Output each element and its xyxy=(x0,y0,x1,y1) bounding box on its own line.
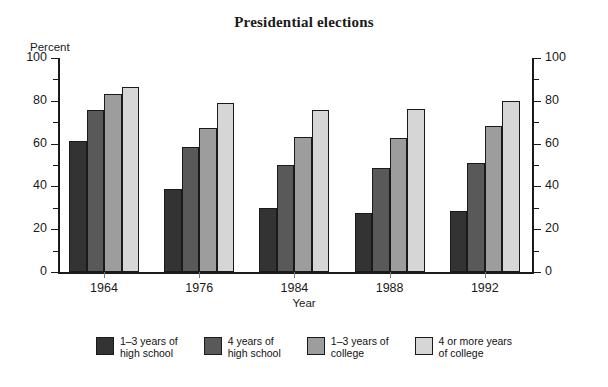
bar-group-1984 xyxy=(259,58,329,272)
bar-1984-series-2[interactable] xyxy=(277,165,295,272)
x-tick-label-1976: 1976 xyxy=(185,281,213,295)
y-tick-left-100 xyxy=(51,58,58,59)
y-tick-label-right-60: 60 xyxy=(545,137,559,150)
x-tick-label-1992: 1992 xyxy=(471,281,499,295)
y-minor-tick-left-10 xyxy=(53,251,58,252)
x-axis-spine xyxy=(58,272,534,274)
y-minor-tick-left-30 xyxy=(53,208,58,209)
bar-1964-series-2[interactable] xyxy=(87,110,105,272)
legend-swatch-2 xyxy=(204,337,222,355)
bar-group-1992 xyxy=(450,58,520,272)
x-tick-1984 xyxy=(294,272,295,278)
y-tick-left-80 xyxy=(51,101,58,102)
chart-legend: 1–3 years of high school4 years of high … xyxy=(0,336,608,359)
bar-1984-series-3[interactable] xyxy=(294,137,312,272)
y-tick-right-40 xyxy=(534,186,541,187)
bar-1964-series-4[interactable] xyxy=(122,87,140,272)
y-tick-label-right-80: 80 xyxy=(545,94,559,107)
y-tick-left-40 xyxy=(51,186,58,187)
x-tick-1964 xyxy=(104,272,105,278)
legend-swatch-4 xyxy=(415,337,433,355)
y-minor-tick-left-50 xyxy=(53,165,58,166)
y-minor-tick-right-30 xyxy=(534,208,539,209)
y-minor-tick-right-70 xyxy=(534,122,539,123)
y-tick-right-80 xyxy=(534,101,541,102)
bar-1964-series-3[interactable] xyxy=(104,94,122,272)
x-tick-1992 xyxy=(485,272,486,278)
bar-1976-series-2[interactable] xyxy=(182,147,200,272)
bar-1984-series-1[interactable] xyxy=(259,208,277,272)
bar-1988-series-3[interactable] xyxy=(390,138,408,272)
y-tick-right-60 xyxy=(534,144,541,145)
legend-label-4: 4 or more years of college xyxy=(439,336,513,359)
legend-swatch-1 xyxy=(96,337,114,355)
bar-1984-series-4[interactable] xyxy=(312,110,330,272)
y-tick-label-right-0: 0 xyxy=(545,265,552,278)
y-axis-left-spine xyxy=(58,58,60,272)
bar-1992-series-2[interactable] xyxy=(467,163,485,272)
bar-group-1988 xyxy=(355,58,425,272)
bar-1976-series-1[interactable] xyxy=(164,189,182,272)
y-tick-label-left-60: 60 xyxy=(33,137,47,150)
plot-area: 020406080100 020406080100 19641976198419… xyxy=(58,58,534,272)
legend-swatch-3 xyxy=(307,337,325,355)
legend-item-3[interactable]: 1–3 years of college xyxy=(307,336,389,359)
y-tick-label-right-20: 20 xyxy=(545,222,559,235)
y-tick-label-left-100: 100 xyxy=(26,51,47,64)
bar-1964-series-1[interactable] xyxy=(69,141,87,272)
x-tick-label-1964: 1964 xyxy=(90,281,118,295)
x-tick-1988 xyxy=(390,272,391,278)
bar-1976-series-3[interactable] xyxy=(199,128,217,272)
y-tick-label-left-0: 0 xyxy=(40,265,47,278)
legend-item-1[interactable]: 1–3 years of high school xyxy=(96,336,178,359)
y-tick-left-60 xyxy=(51,144,58,145)
x-tick-label-1984: 1984 xyxy=(280,281,308,295)
chart-figure: Presidential elections Percent 020406080… xyxy=(0,0,608,387)
y-minor-tick-right-90 xyxy=(534,79,539,80)
y-minor-tick-right-10 xyxy=(534,251,539,252)
legend-item-4[interactable]: 4 or more years of college xyxy=(415,336,513,359)
bar-1992-series-3[interactable] xyxy=(485,126,503,272)
y-minor-tick-right-50 xyxy=(534,165,539,166)
legend-label-2: 4 years of high school xyxy=(228,336,281,359)
legend-label-3: 1–3 years of college xyxy=(331,336,389,359)
bar-1988-series-4[interactable] xyxy=(407,109,425,272)
y-tick-label-right-40: 40 xyxy=(545,179,559,192)
y-tick-label-left-80: 80 xyxy=(33,94,47,107)
bar-1988-series-1[interactable] xyxy=(355,213,373,272)
x-tick-label-1988: 1988 xyxy=(376,281,404,295)
y-tick-left-0 xyxy=(51,272,58,273)
y-tick-label-left-40: 40 xyxy=(33,179,47,192)
x-axis-title: Year xyxy=(0,297,608,309)
legend-item-2[interactable]: 4 years of high school xyxy=(204,336,281,359)
x-tick-1976 xyxy=(199,272,200,278)
chart-title: Presidential elections xyxy=(0,14,608,31)
bar-group-1964 xyxy=(69,58,139,272)
bar-group-1976 xyxy=(164,58,234,272)
y-tick-label-left-20: 20 xyxy=(33,222,47,235)
y-tick-right-20 xyxy=(534,229,541,230)
y-tick-right-100 xyxy=(534,58,541,59)
bar-1992-series-4[interactable] xyxy=(502,101,520,272)
y-tick-label-right-100: 100 xyxy=(545,51,566,64)
bar-1976-series-4[interactable] xyxy=(217,103,235,272)
y-tick-right-0 xyxy=(534,272,541,273)
y-minor-tick-left-90 xyxy=(53,79,58,80)
y-tick-left-20 xyxy=(51,229,58,230)
y-minor-tick-left-70 xyxy=(53,122,58,123)
bar-1988-series-2[interactable] xyxy=(372,168,390,272)
bar-1992-series-1[interactable] xyxy=(450,211,468,272)
legend-label-1: 1–3 years of high school xyxy=(120,336,178,359)
